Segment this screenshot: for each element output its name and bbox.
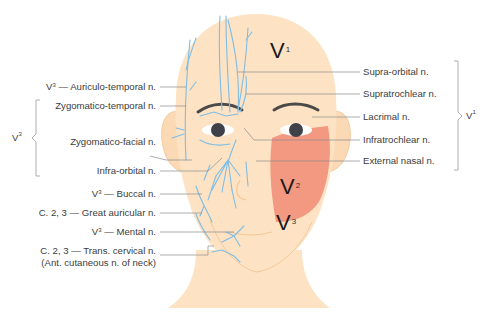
label-infra-orbital: Infra-orbital n. [97,165,156,176]
label-prefix-sup: 3 [98,189,101,195]
right-group-label: V1 [466,110,476,121]
label-prefix-sup: 3 [52,82,55,88]
zone-v1-sup: 1 [286,45,290,54]
label-supratrochlear: Supratrochlear n. [363,88,437,99]
label-supra-orbital: Supra-orbital n. [363,66,429,77]
zone-v1-base: V [270,38,285,63]
label-ant-cutaneous-neck: (Ant. cutaneous n. of neck) [41,257,156,268]
label-trans-cervical: C. 2, 3 — Trans. cervical n. [40,245,156,256]
left-group-label: V3 [12,132,22,143]
left-bracket [32,100,40,176]
label-lacrimal: Lacrimal n. [363,111,410,122]
label-buccal: V3 — Buccal n. [92,188,156,199]
label-prefix-sup: 3 [98,227,101,233]
left-pupil [211,123,225,137]
label-auriculo-temporal: V3 — Auriculo-temporal n. [46,81,156,92]
label-external-nasal: External nasal n. [363,155,434,166]
zone-v2-label: V2 [280,176,300,198]
label-text: — Mental n. [102,226,156,237]
zone-v2-base: V [280,174,295,199]
label-text: — Buccal n. [102,188,156,199]
right-bracket [454,61,462,170]
label-zygomatico-facial: Zygomatico-facial n. [70,136,156,147]
label-zygomatico-temporal: Zygomatico-temporal n. [55,100,156,111]
label-infratrochlear: Infratrochlear n. [363,134,430,145]
group-sup: 1 [472,109,475,115]
zone-v3-sup: 3 [292,217,296,226]
group-sup: 3 [18,131,21,137]
zone-v3-label: V3 [276,212,296,234]
zone-v2-sup: 2 [296,181,300,190]
right-pupil [289,123,303,137]
label-mental: V3 — Mental n. [92,226,156,237]
label-text: — Auriculo-temporal n. [56,81,156,92]
label-great-auricular: C. 2, 3 — Great auricular n. [39,207,156,218]
zone-v3-base: V [276,210,291,235]
zone-v1-label: V1 [270,40,290,62]
